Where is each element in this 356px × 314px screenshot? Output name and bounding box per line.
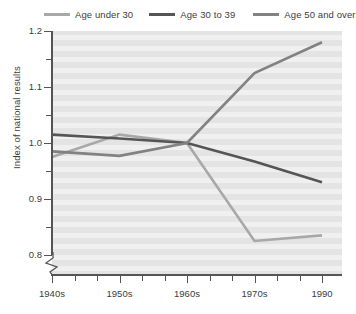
legend-swatch-age-50-and-over [253, 13, 279, 16]
legend-label-age-30-to-39: Age 30 to 39 [180, 9, 235, 20]
legend-item-age-under-30[interactable]: Age under 30 [44, 9, 133, 20]
y-tick-minor [46, 171, 52, 172]
x-tick-major [187, 275, 188, 283]
series-line-age-50-and-over [52, 42, 322, 156]
legend-label-age-under-30: Age under 30 [75, 9, 133, 20]
y-tick-minor [46, 59, 52, 60]
x-tick-label: 1940s [32, 288, 72, 299]
x-tick-label: 1950s [100, 288, 140, 299]
x-tick-label: 1960s [167, 288, 207, 299]
x-tick-major [255, 275, 256, 283]
x-tick-minor [142, 275, 143, 281]
chart-legend: Age under 30 Age 30 to 39 Age 50 and ove… [40, 6, 342, 22]
x-tick-minor [300, 275, 301, 281]
x-tick-major [52, 275, 53, 283]
y-tick-label: 0.9 [18, 193, 42, 204]
y-tick-label: 0.8 [18, 249, 42, 260]
x-tick-minor [210, 275, 211, 281]
y-tick-label: 1.1 [18, 81, 42, 92]
x-tick-minor [97, 275, 98, 281]
x-tick-label: 1990 [302, 288, 342, 299]
series-lines [52, 31, 342, 274]
x-tick-major [120, 275, 121, 283]
y-tick-label: 1.2 [18, 25, 42, 36]
legend-swatch-age-under-30 [44, 13, 70, 16]
y-axis-title: Index of national results [11, 28, 22, 208]
y-tick-major [44, 199, 52, 200]
y-tick-minor [46, 227, 52, 228]
x-tick-label: 1970s [235, 288, 275, 299]
x-tick-minor [165, 275, 166, 281]
y-tick-major [44, 31, 52, 32]
plot-area [52, 31, 342, 274]
series-line-age-under-30 [52, 135, 322, 241]
x-tick-minor [75, 275, 76, 281]
y-tick-minor [46, 115, 52, 116]
legend-item-age-50-and-over[interactable]: Age 50 and over [253, 9, 355, 20]
legend-swatch-age-30-to-39 [149, 13, 175, 16]
y-tick-major [44, 255, 52, 256]
legend-label-age-50-and-over: Age 50 and over [284, 9, 355, 20]
x-tick-minor [232, 275, 233, 281]
x-axis-line [51, 274, 342, 276]
x-tick-major [322, 275, 323, 283]
y-tick-major [44, 143, 52, 144]
x-tick-minor [277, 275, 278, 281]
legend-item-age-30-to-39[interactable]: Age 30 to 39 [149, 9, 235, 20]
y-tick-label: 1.0 [18, 137, 42, 148]
y-tick-major [44, 87, 52, 88]
